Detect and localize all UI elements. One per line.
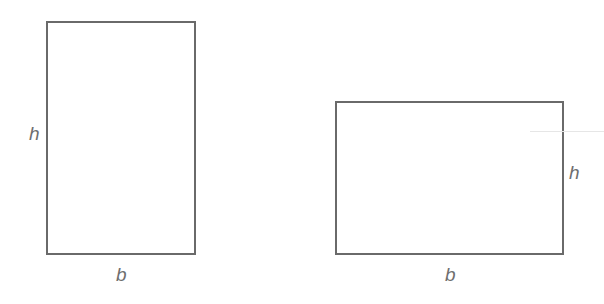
tall-rectangle-base-label: b [116,265,127,284]
faint-guide-line [530,131,604,132]
wide-rectangle [335,101,564,255]
tall-rectangle [46,21,196,255]
wide-rectangle-base-label: b [445,265,456,284]
wide-rectangle-height-label: h [569,163,580,182]
tall-rectangle-height-label: h [29,124,40,143]
